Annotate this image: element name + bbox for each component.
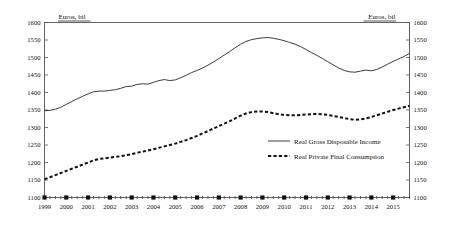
x-axis-tick-label: 2009 [256,203,270,210]
legend-label-1: Real Private Final Consumption [294,153,385,161]
x-axis-tick-label: 2015 [387,203,401,210]
x-year-marker [195,195,199,199]
y-axis-tick-label-right: 1400 [414,89,428,96]
x-axis-tick-label: 2014 [365,203,379,210]
y-axis-tick-label-right: 1300 [414,124,428,131]
x-axis-tick-label: 1999 [38,203,52,210]
x-axis-tick-label: 2003 [125,203,139,210]
y-axis-tick-label-left: 1350 [27,106,41,113]
x-year-marker [260,195,264,199]
x-axis-tick-label: 2005 [169,203,183,210]
y-axis-tick-label-left: 1550 [27,36,41,43]
y-axis-tick-label-right: 1250 [414,141,428,148]
x-year-marker [239,195,243,199]
x-year-marker [369,195,373,199]
x-year-marker [282,195,286,199]
x-axis-tick-label: 2000 [60,203,74,210]
x-year-marker [64,195,68,199]
y-axis-tick-label-left: 1100 [28,194,42,201]
x-year-marker [347,195,351,199]
y-axis-tick-label-left: 1300 [27,124,41,131]
line-chart: 1100110011501150120012001250125013001300… [0,0,453,225]
x-year-marker [173,195,177,199]
x-axis-tick-label: 2011 [300,203,313,210]
y-axis-tick-label-left: 1150 [28,176,42,183]
x-year-marker [108,195,112,199]
y-axis-tick-label-right: 1500 [414,54,428,61]
x-year-marker [42,195,46,199]
y-axis-tick-label-left: 1400 [27,89,41,96]
x-year-marker [304,195,308,199]
x-year-marker [217,195,221,199]
x-year-marker [391,195,395,199]
y-axis-tick-label-right: 1200 [414,159,428,166]
chart-container: 1100110011501150120012001250125013001300… [0,0,453,225]
y-axis-tick-label-right: 1100 [414,194,428,201]
x-year-marker [326,195,330,199]
x-axis-tick-label: 2012 [321,203,334,210]
x-axis-tick-label: 2004 [147,203,161,210]
x-axis-tick-label: 2006 [190,203,204,210]
x-axis-tick-label: 2007 [212,203,226,210]
y-axis-tick-label-left: 1200 [27,159,41,166]
legend-label-0: Real Gross Disposable Income [294,138,381,146]
x-year-marker [151,195,155,199]
x-year-marker [130,195,134,199]
y-axis-tick-label-right: 1600 [414,19,428,26]
y-axis-tick-label-right: 1450 [414,71,428,78]
x-axis-tick-label: 2010 [278,203,292,210]
y-axis-tick-label-left: 1250 [27,141,41,148]
x-axis-tick-label: 2013 [343,203,357,210]
y-axis-tick-label-left: 1500 [27,54,41,61]
y-axis-tick-label-left: 1600 [27,19,41,26]
y-axis-tick-label-left: 1450 [27,71,41,78]
x-axis-tick-label: 2008 [234,203,248,210]
unit-label-right: Euros, bil [368,13,395,21]
y-axis-tick-label-right: 1150 [414,176,428,183]
unit-label-left: Euros, bil [59,13,86,21]
y-axis-tick-label-right: 1550 [414,36,428,43]
x-year-marker [86,195,90,199]
x-axis-tick-label: 2001 [81,203,94,210]
y-axis-tick-label-right: 1350 [414,106,428,113]
x-axis-tick-label: 2002 [103,203,116,210]
plot-frame [45,23,410,198]
